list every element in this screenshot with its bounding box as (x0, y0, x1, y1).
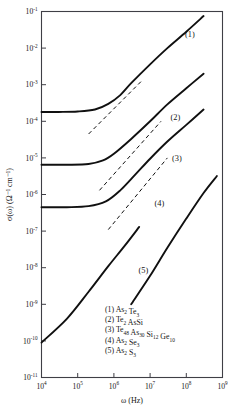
y-axis-title: σ(ω) (Ω⁻¹ cm⁻¹) (5, 168, 14, 221)
y-axis-title-text: σ(ω) (Ω⁻¹ cm⁻¹) (5, 168, 14, 221)
x-axis-title: ω (Hz) (121, 396, 143, 405)
curve-label-4: (4) (154, 199, 164, 208)
curve-label-2: (2) (171, 113, 181, 122)
ac-conductivity-log-log-plot: (1)(2)(3)(4)(5) 10-110-210-310-410-510-6… (0, 0, 240, 413)
curve-label-1: (1) (185, 30, 195, 39)
x-axis-title-text: ω (Hz) (121, 396, 143, 405)
curve-label-5: (5) (138, 266, 148, 275)
conductivity-chart-figure: (1)(2)(3)(4)(5) 10-110-210-310-410-510-6… (0, 0, 240, 413)
curve-label-3: (3) (172, 154, 182, 163)
